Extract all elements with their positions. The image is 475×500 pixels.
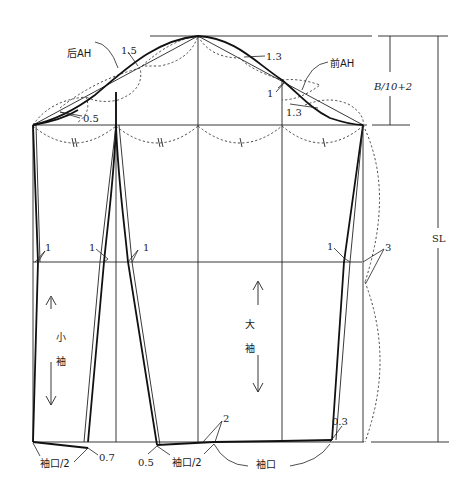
undersleeve-front-guide	[84, 125, 116, 442]
hem-top-left-label: 2	[223, 413, 229, 424]
leader-0-5-hem	[148, 446, 170, 455]
back-underarm-offset-label: 0.5	[83, 113, 99, 124]
undersleeve-front-seam	[88, 92, 116, 442]
cuff-label: 袖口	[256, 458, 276, 470]
tick-2a	[158, 138, 160, 147]
topsleeve-back-seam	[116, 125, 157, 445]
dimension-lines	[390, 36, 438, 442]
dash-side-lower	[365, 282, 380, 442]
elbow-top-right-label: 1	[327, 241, 333, 252]
elbow-under-right-label: 1	[143, 242, 149, 253]
leader-elbow-under-left	[96, 249, 108, 262]
front-cap-diagonal	[198, 36, 363, 125]
sleeve-pattern-diagram: 后AH 1.5 1.3 前AH 1 1.3 0.5 B/10+2 SL 1 1 …	[0, 0, 475, 500]
front-cap-offset-lower-label: 1.3	[286, 107, 302, 118]
grain-arrows	[46, 281, 263, 405]
leader-1-front	[276, 82, 285, 92]
leader-back-ah	[95, 42, 118, 68]
elbow-under-left-label: 1	[89, 242, 95, 253]
dash-side-upper	[363, 125, 380, 282]
front-cap-offset-upper-label: 1.3	[266, 51, 282, 62]
leader-front-ah	[302, 62, 328, 90]
tick-1a	[72, 138, 74, 147]
leader-cuff-half-left-b	[74, 448, 98, 462]
cap-height-formula-label: B/10+2	[373, 81, 412, 92]
tick-1b	[75, 138, 77, 147]
dash-arc-1	[33, 126, 116, 143]
leader-elbow-top-right	[334, 248, 350, 262]
back-cap-offset-label: 1.5	[121, 45, 137, 56]
topsleeve-outline	[116, 125, 363, 445]
dash-arc-2	[116, 126, 198, 143]
dash-arc-3	[198, 126, 282, 143]
topsleeve-char-1: 大	[245, 318, 255, 330]
side-offset-label: 3	[385, 242, 391, 253]
tick-3	[240, 138, 242, 147]
front-armhole-label: 前AH	[330, 57, 354, 69]
tick-marks	[72, 138, 325, 147]
undersleeve-hem	[33, 442, 88, 448]
elbow-left-label: 1	[45, 242, 51, 253]
hem-top-right-label: 0.3	[332, 416, 348, 427]
dash-cap-front-low	[305, 100, 363, 125]
undersleeve-outline	[33, 92, 116, 448]
leader-lines	[33, 42, 384, 466]
dash-arc-4	[282, 126, 363, 143]
front-notch-offset-label: 1	[267, 88, 273, 99]
cuff-half-mid-label: 袖口/2	[172, 456, 202, 468]
leader-cuff-right-arc	[290, 444, 330, 466]
topsleeve-char-2: 袖	[245, 342, 255, 354]
leader-cuff-half-left-a	[33, 443, 40, 456]
cuff-half-left-label: 袖口/2	[40, 457, 70, 469]
hem-under-right-label: 0.5	[138, 457, 154, 468]
tick-4	[323, 138, 325, 147]
leader-1-3-upper	[244, 56, 265, 57]
dash-cap-back-mid	[60, 68, 141, 108]
pattern-canvas: 后AH 1.5 1.3 前AH 1 1.3 0.5 B/10+2 SL 1 1 …	[0, 0, 475, 500]
leader-elbow-under-right	[128, 250, 138, 262]
hem-under-left-label: 0.7	[99, 452, 115, 463]
leader-2	[203, 421, 222, 442]
topsleeve-back-guide	[119, 125, 160, 445]
topsleeve-front-guide	[336, 125, 363, 440]
undersleeve-char-1: 小	[56, 332, 66, 343]
back-armhole-label: 后AH	[67, 48, 91, 59]
topsleeve-hem	[157, 440, 332, 445]
leader-side-3	[363, 249, 384, 283]
leader-cuff-left-arc	[214, 444, 248, 466]
leader-cuff-half-mid	[204, 444, 214, 454]
sleeve-length-label: SL	[432, 233, 446, 244]
construction-lines	[33, 36, 449, 442]
undersleeve-char-2: 袖	[56, 355, 66, 367]
